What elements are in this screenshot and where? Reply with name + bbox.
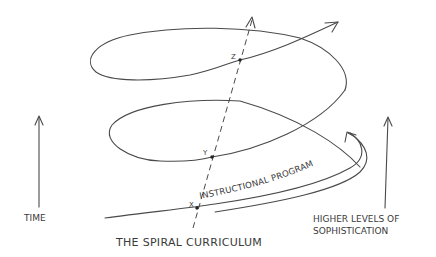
spiral-curriculum-diagram: X Y Z INSTRUCTIONAL PROGRAM TIME HIGHER … xyxy=(0,0,436,257)
diagram-title: THE SPIRAL CURRICULUM xyxy=(115,236,262,249)
point-y: Y xyxy=(202,149,214,159)
axis-arrowhead-icon xyxy=(246,17,255,28)
svg-text:Z: Z xyxy=(231,53,236,61)
svg-text:X: X xyxy=(189,201,194,209)
time-label: TIME xyxy=(23,213,46,223)
instructional-program-label: INSTRUCTIONAL PROGRAM xyxy=(199,158,315,201)
sophistication-label-line1: HIGHER LEVELS OF xyxy=(313,214,399,224)
sophistication-axis xyxy=(384,117,392,208)
sophistication-label-line2: SOPHISTICATION xyxy=(313,226,388,236)
point-x: X xyxy=(189,201,199,210)
point-z: Z xyxy=(231,53,242,62)
svg-text:Y: Y xyxy=(202,149,208,157)
time-axis xyxy=(35,116,43,207)
